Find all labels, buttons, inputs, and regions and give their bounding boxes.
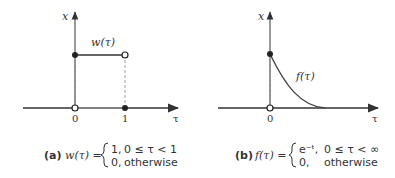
- caption-a-case1-value: 1,: [111, 143, 122, 156]
- caption-a-brace: [101, 143, 108, 167]
- caption-b-case1-value: e⁻ᵗ,: [299, 143, 318, 156]
- panel-a-x-axis-label: τ: [173, 113, 179, 124]
- panel-b-tick-0: 0: [267, 113, 273, 124]
- panel-a-y-axis-label: x: [62, 10, 69, 23]
- caption-b-case2-value: 0,: [299, 156, 310, 169]
- panel-a-open-dot-top: [122, 52, 128, 58]
- panel-a-window-function: x w(τ) 0 1 τ: [23, 10, 179, 124]
- caption-b-case1-cond: 0 ≤ τ < ∞: [324, 143, 379, 156]
- caption-a-tag: (a): [44, 149, 61, 162]
- caption-a: (a) w(τ) = 1, 0 ≤ τ < 1 0, otherwise: [44, 143, 178, 169]
- caption-b-lhs: f(τ) =: [254, 149, 286, 162]
- panel-a-tick-0: 0: [72, 113, 78, 124]
- diagram-canvas: x w(τ) 0 1 τ x f(τ) 0 τ (a) w(τ) = 1, 0 …: [0, 0, 395, 178]
- panel-b-filled-dot-top: [267, 51, 273, 57]
- caption-a-case2-value: 0,: [111, 156, 122, 169]
- panel-a-filled-dot-top: [72, 52, 78, 58]
- caption-b-tag: (b): [235, 149, 253, 162]
- caption-b: (b) f(τ) = e⁻ᵗ, 0 ≤ τ < ∞ 0, otherwise: [235, 143, 379, 169]
- panel-a-tick-1: 1: [122, 113, 128, 124]
- caption-b-case2-cond: otherwise: [324, 156, 378, 169]
- panel-a-open-dot-axis: [72, 105, 78, 111]
- panel-b-exponential-function: x f(τ) 0 τ: [218, 10, 378, 124]
- panel-b-open-dot-axis: [267, 105, 273, 111]
- caption-a-lhs: w(τ) =: [65, 149, 102, 162]
- caption-a-case2-cond: otherwise: [124, 156, 178, 169]
- panel-a-filled-dot-axis: [122, 105, 128, 111]
- caption-a-case1-cond: 0 ≤ τ < 1: [124, 143, 177, 156]
- panel-b-x-axis-label: τ: [372, 113, 378, 124]
- panel-b-curve-label: f(τ): [295, 70, 315, 83]
- caption-b-brace: [289, 143, 296, 167]
- panel-a-curve-label: w(τ): [91, 36, 115, 49]
- panel-b-y-axis-label: x: [258, 10, 265, 23]
